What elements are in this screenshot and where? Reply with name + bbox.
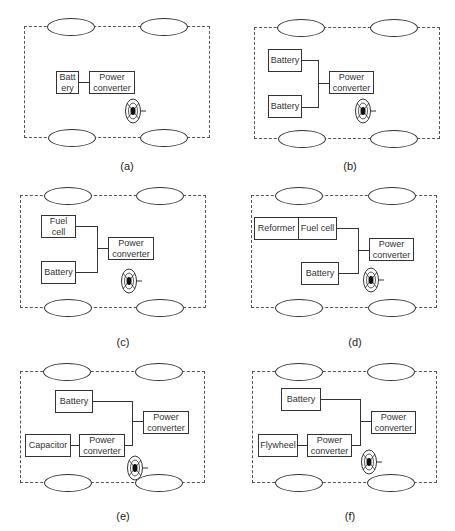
- steering-wheel-icon: [124, 97, 146, 125]
- connector-line: [302, 60, 318, 61]
- connector-line: [76, 226, 97, 227]
- wheel-rear-right: [140, 129, 188, 147]
- flywheel-box: Flywheel: [258, 434, 298, 457]
- wheel-rear-left: [44, 299, 92, 317]
- connector-line: [71, 445, 79, 446]
- connector-line: [339, 273, 358, 274]
- panel-caption: (d): [335, 336, 375, 348]
- panel-d: Reformer Fuel cell Battery Power convert…: [250, 180, 450, 330]
- connector-line: [318, 60, 319, 108]
- panel-caption: (b): [330, 160, 370, 172]
- connector-line: [337, 228, 358, 229]
- power-converter-box: Power converter: [329, 71, 374, 94]
- power-converter-box: Power converter: [371, 411, 416, 434]
- battery-box: Battery: [281, 388, 321, 411]
- battery-box: Battery: [41, 261, 76, 284]
- wheel-front-left: [275, 363, 323, 381]
- connector-line: [302, 107, 318, 108]
- panel-b: Battery Battery Power converter (b): [250, 5, 450, 155]
- wheel-front-left: [47, 18, 95, 36]
- wheel-front-right: [136, 187, 184, 205]
- wheel-front-right: [367, 363, 415, 381]
- wheel-front-right: [370, 19, 418, 37]
- wheel-front-left: [43, 363, 91, 381]
- power-converter-box: Power converter: [89, 71, 135, 94]
- steering-wheel-icon: [126, 454, 148, 482]
- wheel-rear-right: [370, 130, 418, 148]
- connector-line: [97, 248, 108, 249]
- wheel-rear-left: [48, 129, 96, 147]
- battery-box: Battery: [55, 390, 93, 413]
- panel-c: Fuel cell Battery Power converter (c): [20, 180, 220, 330]
- capacitor-box: Capacitor: [25, 434, 71, 457]
- wheel-front-left: [275, 187, 323, 205]
- wheel-rear-right: [136, 299, 184, 317]
- wheel-front-right: [368, 187, 416, 205]
- connector-line: [360, 421, 371, 422]
- connector-line: [125, 445, 132, 446]
- connector-line: [76, 272, 97, 273]
- wheel-front-right: [135, 363, 183, 381]
- wheel-rear-left: [278, 130, 326, 148]
- steering-wheel-icon: [362, 266, 384, 294]
- wheel-rear-left: [275, 299, 323, 317]
- panel-e: Battery Capacitor Power converter Power …: [20, 355, 220, 505]
- power-converter-box: Power converter: [143, 411, 189, 434]
- wheel-rear-right: [368, 299, 416, 317]
- panel-f: Battery Flywheel Power converter Power c…: [250, 355, 450, 505]
- panel-caption: (c): [103, 336, 143, 348]
- battery-box: Battery: [301, 262, 339, 285]
- fuel-cell-box: Fuel cell: [41, 215, 76, 238]
- battery-box-1: Battery: [268, 49, 302, 72]
- connector-line: [352, 445, 360, 446]
- connector-line: [321, 399, 360, 400]
- battery-box: Batt ery: [56, 71, 79, 94]
- connector-line: [358, 250, 369, 251]
- connector-line: [79, 82, 89, 83]
- wheel-rear-left: [275, 474, 323, 492]
- connector-line: [360, 399, 361, 446]
- battery-box-2: Battery: [268, 95, 302, 118]
- wheel-rear-left: [44, 474, 92, 492]
- reformer-box: Reformer: [254, 217, 299, 240]
- power-converter-box-secondary: Power converter: [79, 434, 125, 457]
- fuel-cell-box: Fuel cell: [298, 217, 337, 240]
- connector-line: [132, 421, 143, 422]
- steering-wheel-icon: [360, 448, 382, 476]
- wheel-front-left: [277, 19, 325, 37]
- panel-a: Batt ery Power converter (a): [20, 5, 220, 155]
- wheel-front-left: [44, 187, 92, 205]
- panel-caption: (f): [330, 510, 370, 522]
- wheel-rear-right: [367, 474, 415, 492]
- wheel-front-right: [140, 18, 188, 36]
- panel-caption: (e): [103, 510, 143, 522]
- connector-line: [93, 401, 132, 402]
- connector-line: [358, 228, 359, 274]
- connector-line: [318, 83, 329, 84]
- power-converter-box: Power converter: [108, 237, 154, 260]
- steering-wheel-icon: [354, 97, 376, 125]
- connector-line: [298, 445, 307, 446]
- panel-caption: (a): [107, 160, 147, 172]
- power-converter-box-secondary: Power converter: [307, 434, 352, 457]
- power-converter-box: Power converter: [369, 238, 414, 261]
- connector-line: [97, 226, 98, 273]
- steering-wheel-icon: [120, 267, 142, 295]
- connector-line: [132, 401, 133, 446]
